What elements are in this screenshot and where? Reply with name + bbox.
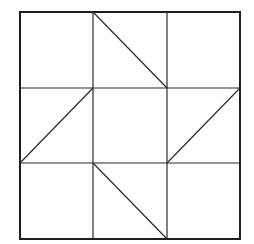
cell-diagonal-line [93,163,167,239]
cell-diagonal-line [167,88,240,163]
cell-diagonals [20,12,240,239]
cell-diagonal-line [93,12,167,88]
inner-grid-lines [20,12,240,239]
outer-border [20,12,240,239]
cell-diagonal-line [20,88,93,163]
quilt-grid-diagram [0,0,254,244]
